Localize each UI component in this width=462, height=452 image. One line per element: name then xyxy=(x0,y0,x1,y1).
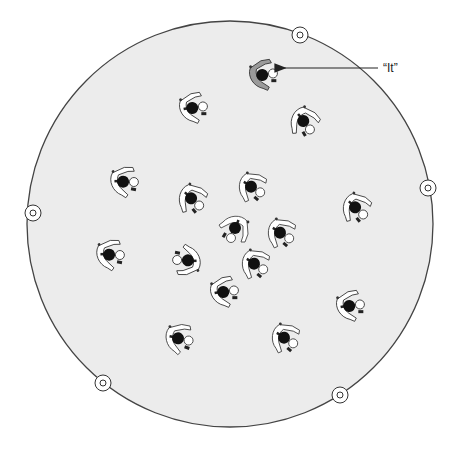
marker-left-icon xyxy=(25,205,41,221)
playing-field-circle xyxy=(27,21,433,427)
it-label: “It” xyxy=(383,61,398,75)
marker-bottom-right-icon xyxy=(332,387,348,403)
marker-bottom-left-icon xyxy=(95,375,111,391)
marker-right-icon xyxy=(420,180,436,196)
tag-field-diagram: “It” xyxy=(0,0,462,452)
marker-top-icon xyxy=(292,27,308,43)
